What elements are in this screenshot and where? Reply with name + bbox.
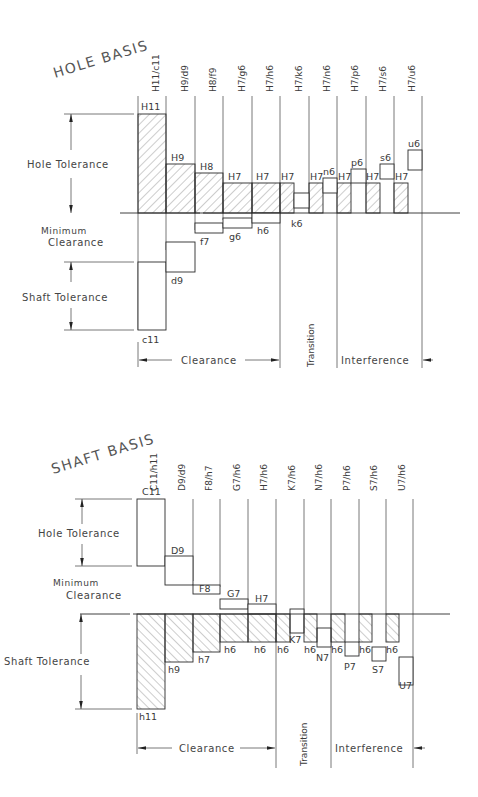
fit-header: H7/u6 bbox=[407, 65, 417, 92]
hole-label: H7 bbox=[281, 171, 294, 182]
shaft-basis-title: SHAFT BASIS bbox=[49, 430, 156, 477]
shaft-label: h6 bbox=[359, 644, 371, 655]
hole-label: H9 bbox=[171, 152, 184, 163]
fits-diagram: HOLE BASIS H11/c11 H9/d9 H8/f9 H7/g6 H7/… bbox=[0, 0, 478, 797]
hole-label: G7 bbox=[227, 588, 240, 599]
hole-basis-side-labels: Hole Tolerance Minimum Clearance Shaft T… bbox=[22, 159, 109, 303]
hole-basis-zones: Clearance Transition Interference bbox=[138, 323, 433, 368]
fit-header: H8/f9 bbox=[208, 67, 218, 92]
minimum-label: Minimum bbox=[41, 226, 87, 236]
shaft-label: h7 bbox=[198, 654, 210, 665]
zone-transition-label: Transition bbox=[299, 722, 309, 767]
hole-basis-section: HOLE BASIS H11/c11 H9/d9 H8/f9 H7/g6 H7/… bbox=[22, 37, 460, 368]
hole-label: D9 bbox=[171, 545, 184, 556]
shaft-tolerance-label: Shaft Tolerance bbox=[22, 292, 108, 303]
shaft-label: p6 bbox=[351, 157, 363, 168]
hole-tolerance-label: Hole Tolerance bbox=[27, 159, 109, 170]
hole-label: H11 bbox=[141, 101, 160, 112]
shaft-label: h6 bbox=[304, 644, 316, 655]
zone-clearance-label: Clearance bbox=[179, 743, 235, 754]
fit-header: H7/s6 bbox=[378, 66, 388, 92]
hole-label: H7 bbox=[256, 171, 269, 182]
hole-basis-title: HOLE BASIS bbox=[51, 37, 150, 81]
shaft-label: d9 bbox=[171, 275, 183, 286]
shaft-label: h6 bbox=[257, 225, 269, 236]
fit-header: K7/h6 bbox=[287, 465, 297, 491]
shaft-label: g6 bbox=[229, 231, 241, 242]
hole-basis-fit-headers: H11/c11 H9/d9 H8/f9 H7/g6 H7/h6 H7/k6 H7… bbox=[151, 54, 417, 92]
fit-header: H7/h6 bbox=[259, 464, 269, 491]
shaft-label: h6 bbox=[331, 644, 343, 655]
zone-interference-label: Interference bbox=[341, 355, 409, 366]
hole-tolerance-zones bbox=[138, 114, 408, 213]
shaft-basis-fit-headers: C11/h11 D9/d9 F8/h7 G7/h6 H7/h6 K7/h6 N7… bbox=[149, 453, 407, 491]
hole-tolerance-label: Hole Tolerance bbox=[38, 528, 120, 539]
hole-label: N7 bbox=[316, 652, 329, 663]
shaft-label: f7 bbox=[200, 236, 209, 247]
hole-label: H7 bbox=[255, 593, 268, 604]
fit-header: F8/h7 bbox=[204, 466, 214, 491]
shaft-label: h6 bbox=[224, 644, 236, 655]
hole-label: H7 bbox=[310, 171, 323, 182]
fit-header: H11/c11 bbox=[151, 54, 161, 92]
hole-label: C11 bbox=[142, 486, 161, 497]
hole-label: H8 bbox=[200, 161, 213, 172]
fit-header: H7/p6 bbox=[350, 65, 360, 92]
shaft-label: h6 bbox=[254, 644, 266, 655]
shaft-label: h11 bbox=[139, 711, 157, 722]
shaft-label: h6 bbox=[277, 644, 289, 655]
shaft-label: u6 bbox=[408, 138, 420, 149]
shaft-basis-side-labels: Hole Tolerance Minimum Clearance Shaft T… bbox=[4, 528, 122, 667]
zone-transition-label: Transition bbox=[306, 323, 316, 368]
hole-label: H7 bbox=[338, 171, 351, 182]
hole-basis-column-dividers bbox=[138, 96, 422, 368]
shaft-basis-section: SHAFT BASIS C11/h11 D9/d9 F8/h7 G7/h6 H7… bbox=[4, 430, 450, 768]
zone-clearance-label: Clearance bbox=[181, 355, 237, 366]
fit-header: G7/h6 bbox=[232, 464, 242, 491]
clearance-label: Clearance bbox=[48, 237, 104, 248]
fit-header: D9/d9 bbox=[177, 464, 187, 491]
shaft-tolerance-zones bbox=[137, 614, 399, 709]
shaft-basis-zones: Clearance Transition Interference bbox=[137, 713, 425, 767]
fit-header: H7/k6 bbox=[294, 65, 304, 92]
shaft-label: h9 bbox=[168, 664, 180, 675]
zone-interference-label: Interference bbox=[335, 743, 403, 754]
hole-label: F8 bbox=[199, 583, 211, 594]
shaft-label: n6 bbox=[323, 166, 335, 177]
fit-header: N7/h6 bbox=[314, 464, 324, 491]
fit-header: H7/h6 bbox=[265, 65, 275, 92]
hole-label: H7 bbox=[228, 171, 241, 182]
hole-label: S7 bbox=[372, 664, 384, 675]
hole-label: H7 bbox=[366, 171, 379, 182]
hole-label: P7 bbox=[344, 661, 356, 672]
fit-header: H7/n6 bbox=[322, 65, 332, 92]
clearance-label: Clearance bbox=[66, 590, 122, 601]
shaft-label: s6 bbox=[380, 152, 391, 163]
shaft-tolerance-label: Shaft Tolerance bbox=[4, 656, 90, 667]
shaft-label: h6 bbox=[386, 644, 398, 655]
fit-header: H9/d9 bbox=[180, 65, 190, 92]
fit-header: H7/g6 bbox=[237, 65, 247, 92]
fit-header: U7/h6 bbox=[397, 464, 407, 491]
fit-header: S7/h6 bbox=[369, 465, 379, 491]
hole-label: U7 bbox=[399, 680, 412, 691]
shaft-label: k6 bbox=[291, 218, 303, 229]
hole-label: H7 bbox=[395, 171, 408, 182]
hole-label: K7 bbox=[289, 634, 301, 645]
fit-header: P7/h6 bbox=[342, 465, 352, 491]
shaft-label: c11 bbox=[142, 334, 159, 345]
minimum-label: Minimum bbox=[53, 578, 99, 588]
